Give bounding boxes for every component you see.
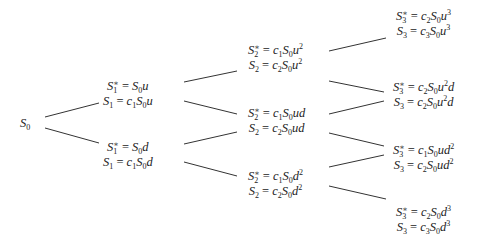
tree-edge-n1u-n2uu xyxy=(184,71,237,82)
risk-neutral-price: S∗2 = c1S0u2 xyxy=(248,43,303,58)
tree-node-n1d: S∗1 = S0dS1 = c1S0d xyxy=(103,140,153,170)
tree-edge-n2uu-n3uud xyxy=(329,81,384,92)
risk-neutral-price: S∗3 = c2S0u3 xyxy=(396,9,451,24)
risk-neutral-price: S∗2 = c1S0d2 xyxy=(248,169,303,184)
risk-neutral-price: S∗1 = S0d xyxy=(103,140,153,155)
risk-neutral-price: S∗3 = c2S0d3 xyxy=(396,205,451,220)
tree-edge-n1u-n2ud xyxy=(184,101,237,114)
risk-neutral-price: S∗2 = c1S0ud xyxy=(248,106,305,121)
actual-price: S1 = c1S0d xyxy=(103,155,153,170)
actual-price: S3 = c3S0u3 xyxy=(396,24,451,39)
tree-edge-n0-n1u xyxy=(45,103,99,117)
root-node: S0 xyxy=(20,116,30,131)
actual-price: S2 = c2S0ud xyxy=(248,121,305,136)
tree-node-n2dd: S∗2 = c1S0d2S2 = c2S0d2 xyxy=(248,169,303,199)
tree-edge-n1d-n2ud xyxy=(184,132,237,144)
risk-neutral-price: S∗3 = c2S0u2d xyxy=(393,80,454,95)
risk-neutral-price: S∗1 = S0u xyxy=(103,79,153,94)
tree-edge-n2ud-n3uud xyxy=(329,101,384,114)
tree-node-n3uuu: S∗3 = c2S0u3S3 = c3S0u3 xyxy=(396,9,451,39)
actual-price: S2 = c2S0d2 xyxy=(248,184,303,199)
tree-node-n2ud: S∗2 = c1S0udS2 = c2S0ud xyxy=(248,106,305,136)
actual-price: S3 = c2S0ud2 xyxy=(393,158,454,173)
tree-edge-n1d-n2dd xyxy=(184,162,237,176)
actual-price: S1 = c1S0u xyxy=(103,94,153,109)
tree-node-n3udd: S∗3 = c1S0ud2S3 = c2S0ud2 xyxy=(393,143,454,173)
tree-node-n3ddd: S∗3 = c2S0d3S3 = c3S0d3 xyxy=(396,205,451,235)
tree-edge-n2ud-n3udd xyxy=(329,133,384,146)
actual-price: S3 = c3S0d3 xyxy=(396,220,451,235)
tree-node-n1u: S∗1 = S0uS1 = c1S0u xyxy=(103,79,153,109)
risk-neutral-price: S∗3 = c1S0ud2 xyxy=(393,143,454,158)
tree-edge-n0-n1d xyxy=(45,128,99,143)
actual-price: S2 = c2S0u2 xyxy=(248,58,303,73)
tree-node-n2uu: S∗2 = c1S0u2S2 = c2S0u2 xyxy=(248,43,303,73)
actual-price: S3 = c2S0u2d xyxy=(393,95,454,110)
tree-node-n3uud: S∗3 = c2S0u2dS3 = c2S0u2d xyxy=(393,80,454,110)
tree-edge-n2uu-n3uuu xyxy=(329,38,386,51)
tree-edge-n2dd-n3ddd xyxy=(329,186,386,199)
tree-edge-n2dd-n3udd xyxy=(329,155,384,167)
